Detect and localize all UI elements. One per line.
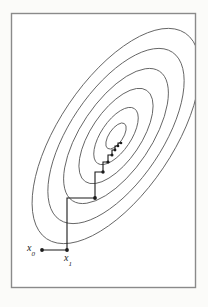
path-vertex xyxy=(101,170,104,173)
figure-container: x0 x1 xyxy=(0,0,208,307)
point-label-x1: x1 xyxy=(64,253,72,263)
path-vertex xyxy=(93,196,97,200)
path-vertex xyxy=(120,142,123,145)
path-vertex xyxy=(117,145,120,148)
point-label-x0: x0 xyxy=(27,243,35,253)
point-label-x0-subscript: 0 xyxy=(31,250,35,258)
path-vertex-x0 xyxy=(40,248,44,252)
figure-frame xyxy=(12,14,196,288)
point-label-x1-subscript: 1 xyxy=(68,260,72,268)
path-vertex xyxy=(106,160,109,163)
path-vertex xyxy=(114,149,117,152)
path-vertex xyxy=(111,154,114,157)
contour-plot-svg xyxy=(0,0,208,307)
